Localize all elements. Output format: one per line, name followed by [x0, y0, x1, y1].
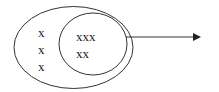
- outer-element-3: x: [38, 59, 45, 74]
- inner-set-ellipse: [59, 13, 127, 75]
- inner-element-1: xxx: [76, 29, 96, 44]
- outer-element-1: x: [38, 25, 45, 40]
- outer-element-2: x: [38, 42, 45, 57]
- arrow-head-icon: [193, 33, 201, 41]
- venn-diagram: x x x xxx xx: [0, 0, 219, 92]
- inner-element-2: xx: [76, 46, 90, 61]
